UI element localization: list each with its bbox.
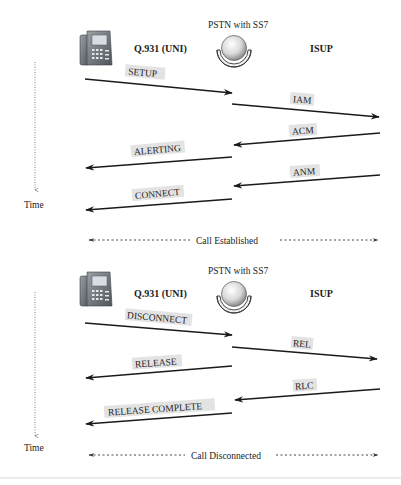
- setup-section: Q.931 (UNI) PSTN with SS7 ISUP Time SETU…: [24, 20, 380, 246]
- pstn-cloud-icon: [217, 282, 251, 314]
- status-label: Call Disconnected: [191, 451, 261, 461]
- teardown-section: Q.931 (UNI) PSTN with SS7 ISUP Time DISC…: [24, 266, 380, 461]
- message-label: RELEASE COMPLETE: [108, 401, 203, 418]
- message-anm: ANM: [234, 164, 380, 186]
- status-label: Call Established: [196, 236, 258, 246]
- message-acm: ACM: [234, 123, 380, 145]
- left-protocol-label: Q.931 (UNI): [134, 43, 187, 55]
- message-release: RELEASE: [86, 354, 232, 378]
- message-alerting: ALERTING: [86, 141, 232, 168]
- right-protocol-label: ISUP: [310, 288, 333, 299]
- arrow-right: [232, 104, 379, 117]
- message-rel: REL: [232, 336, 377, 359]
- call-flow-diagram: Q.931 (UNI) PSTN with SS7 ISUP Time SETU…: [0, 0, 401, 485]
- call-disconnected-indicator: Call Disconnected: [89, 451, 378, 461]
- message-setup: SETUP: [85, 64, 232, 93]
- message-iam: IAM: [232, 92, 379, 117]
- message-disconnect: DISCONNECT: [85, 308, 232, 335]
- right-protocol-label: ISUP: [310, 43, 333, 54]
- arrow-left: [86, 199, 232, 210]
- call-established-indicator: Call Established: [89, 236, 378, 246]
- time-label: Time: [24, 200, 44, 210]
- network-label: PSTN with SS7: [208, 266, 268, 276]
- message-label: REL: [293, 338, 312, 350]
- arrow-right: [85, 79, 232, 93]
- message-connect: CONNECT: [86, 185, 232, 210]
- time-label: Time: [24, 443, 44, 453]
- network-label: PSTN with SS7: [208, 20, 268, 30]
- arrow-left: [86, 157, 232, 168]
- message-label: ACM: [292, 125, 315, 137]
- message-label: RLC: [295, 380, 314, 391]
- arrow-right: [85, 323, 232, 335]
- message-label: DISCONNECT: [127, 310, 188, 325]
- message-label: SETUP: [128, 67, 158, 79]
- message-rlc: RLC: [235, 378, 380, 400]
- ip-phone-icon: [80, 31, 112, 65]
- left-protocol-label: Q.931 (UNI): [134, 288, 187, 300]
- message-release-complete: RELEASE COMPLETE: [86, 398, 232, 424]
- message-label: IAM: [293, 94, 313, 106]
- pstn-cloud-icon: [217, 36, 251, 68]
- message-label: ANM: [293, 166, 316, 178]
- message-label: RELEASE: [135, 357, 177, 370]
- ip-phone-icon: [80, 272, 112, 306]
